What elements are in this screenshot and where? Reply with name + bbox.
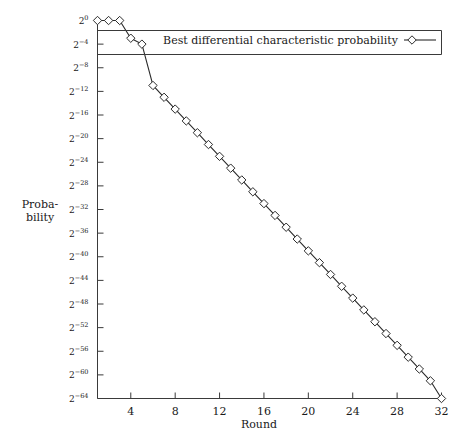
x-axis-title: Round <box>241 418 277 431</box>
legend-entry-label: Best differential characteristic probabi… <box>163 34 399 47</box>
x-tick-label: 32 <box>435 405 449 418</box>
chart-background <box>0 0 458 448</box>
x-tick-label: 24 <box>346 405 360 418</box>
y-axis-title-line2: bility <box>26 211 55 224</box>
x-tick-label: 8 <box>172 405 179 418</box>
x-tick-label: 12 <box>213 405 227 418</box>
y-axis-title-line1: Proba- <box>22 198 59 211</box>
x-tick-label: 16 <box>257 405 271 418</box>
x-tick-label: 4 <box>127 405 134 418</box>
chart-figure: 202−42−82−122−162−202−242−282−322−362−40… <box>0 0 458 448</box>
x-tick-label: 28 <box>390 405 404 418</box>
x-tick-label: 20 <box>301 405 315 418</box>
